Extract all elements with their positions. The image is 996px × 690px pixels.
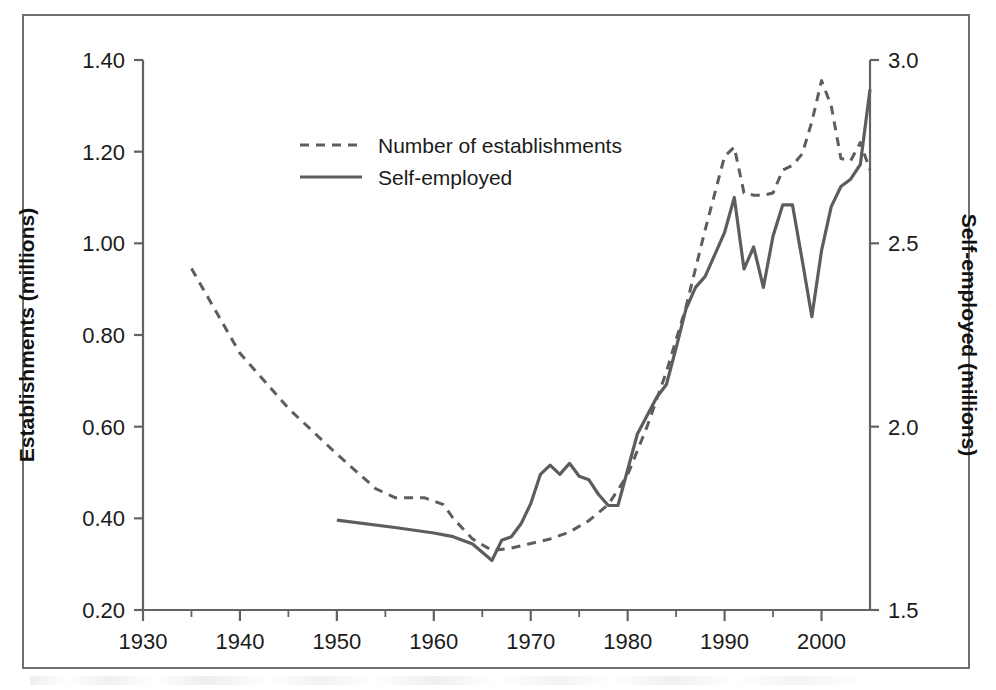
figure-container: 0.200.400.600.801.001.201.40 1.52.02.53.…	[0, 0, 996, 690]
x-tick-label: 2000	[797, 629, 846, 654]
legend-label-2: Self-employed	[378, 166, 512, 189]
y-axis-right-tick-labels: 1.52.02.53.0	[888, 48, 919, 623]
chart-legend: Number of establishmentsSelf-employed	[300, 134, 622, 189]
y-left-tick-label: 1.40	[82, 48, 125, 73]
x-tick-label: 1990	[700, 629, 749, 654]
y-axis-left-tick-labels: 0.200.400.600.801.001.201.40	[82, 48, 125, 623]
y-right-tick-label: 2.5	[888, 231, 919, 256]
x-tick-label: 1980	[603, 629, 652, 654]
x-axis-ticks	[143, 610, 822, 621]
x-axis-tick-labels: 19301940195019601970198019902000	[119, 629, 846, 654]
y-axis-right-title: Self-employed (millions)	[958, 214, 981, 457]
x-tick-label: 1970	[506, 629, 555, 654]
series-line-2	[337, 89, 870, 560]
y-right-tick-label: 3.0	[888, 48, 919, 73]
y-right-tick-label: 2.0	[888, 415, 919, 440]
y-right-tick-label: 1.5	[888, 598, 919, 623]
y-left-tick-label: 1.00	[82, 231, 125, 256]
x-tick-label: 1950	[312, 629, 361, 654]
x-tick-label: 1940	[215, 629, 264, 654]
x-tick-label: 1930	[119, 629, 168, 654]
y-left-tick-label: 1.20	[82, 140, 125, 165]
x-tick-label: 1960	[409, 629, 458, 654]
legend-label-1: Number of establishments	[378, 134, 622, 157]
y-left-tick-label: 0.40	[82, 506, 125, 531]
line-chart: 0.200.400.600.801.001.201.40 1.52.02.53.…	[0, 0, 996, 690]
y-axis-right-ticks	[870, 60, 879, 610]
y-left-tick-label: 0.20	[82, 598, 125, 623]
y-left-tick-label: 0.60	[82, 415, 125, 440]
y-left-tick-label: 0.80	[82, 323, 125, 348]
y-axis-left-ticks	[134, 60, 143, 610]
y-axis-left-title: Establishments (millions)	[15, 208, 38, 462]
